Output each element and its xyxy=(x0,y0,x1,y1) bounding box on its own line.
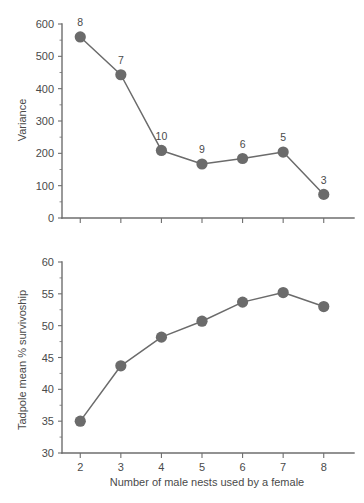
y-tick-label: 300 xyxy=(36,115,54,127)
data-point-marker xyxy=(156,145,167,156)
data-point-marker xyxy=(115,360,126,371)
y-tick-label: 55 xyxy=(42,288,54,300)
y-axis-title-variance: Variance xyxy=(16,99,28,142)
y-axis-title-survivorship: Tadpole mean % survivoship xyxy=(16,290,28,430)
y-tick-label: 100 xyxy=(36,180,54,192)
data-point-marker xyxy=(278,146,289,157)
data-point-marker xyxy=(237,153,248,164)
x-tick-label: 2 xyxy=(77,461,83,473)
x-tick-label: 8 xyxy=(321,461,327,473)
y-tick-label-group-variance: 0100200300400500600 xyxy=(36,18,54,224)
data-point-label: 3 xyxy=(321,174,327,186)
y-tick-label: 45 xyxy=(42,352,54,364)
survivorship-marker-group xyxy=(75,287,330,427)
y-tick-label: 30 xyxy=(42,447,54,459)
figure-container: Variance 0100200300400500600 87109653 Ta… xyxy=(0,0,364,503)
y-tick-label: 0 xyxy=(48,212,54,224)
survivorship-series-line xyxy=(80,293,323,422)
data-point-label: 9 xyxy=(199,143,205,155)
data-point-marker xyxy=(318,301,329,312)
data-point-marker xyxy=(278,287,289,298)
data-point-marker xyxy=(318,189,329,200)
data-point-label: 7 xyxy=(118,54,124,66)
x-axis-title-survivorship: Number of male nests used by a female xyxy=(110,476,304,488)
data-point-marker xyxy=(115,69,126,80)
chart-panel-variance: Variance 0100200300400500600 87109653 xyxy=(0,0,364,248)
x-tick-label: 5 xyxy=(199,461,205,473)
data-point-marker xyxy=(75,416,86,427)
y-tick-label: 600 xyxy=(36,18,54,30)
variance-series-line xyxy=(80,37,323,194)
y-tick-label: 200 xyxy=(36,147,54,159)
data-point-marker xyxy=(196,158,207,169)
data-point-marker xyxy=(75,31,86,42)
y-tick-label: 40 xyxy=(42,383,54,395)
x-tick-label: 6 xyxy=(240,461,246,473)
x-tick-label: 4 xyxy=(158,461,164,473)
y-tick-label: 50 xyxy=(42,320,54,332)
data-point-label: 8 xyxy=(77,16,83,28)
data-point-label: 5 xyxy=(280,131,286,143)
data-point-marker xyxy=(156,332,167,343)
data-point-marker xyxy=(196,316,207,327)
x-tick-label: 3 xyxy=(118,461,124,473)
data-point-marker xyxy=(237,297,248,308)
variance-marker-group xyxy=(75,31,330,200)
x-tick-label: 7 xyxy=(280,461,286,473)
variance-chart-svg: Variance 0100200300400500600 87109653 xyxy=(0,0,364,248)
data-point-label: 6 xyxy=(240,138,246,150)
y-tick-label: 60 xyxy=(42,256,54,268)
chart-panel-survivorship: Tadpole mean % survivoship Number of mal… xyxy=(0,248,364,503)
data-point-label: 10 xyxy=(156,130,168,142)
x-tick-group-variance xyxy=(80,218,323,223)
y-tick-label: 400 xyxy=(36,83,54,95)
survivorship-chart-svg: Tadpole mean % survivoship Number of mal… xyxy=(0,248,364,503)
y-tick-label: 35 xyxy=(42,415,54,427)
y-tick-label: 500 xyxy=(36,50,54,62)
y-tick-label-group-survivorship: 30354045505560 xyxy=(42,256,54,459)
x-tick-group-survivorship xyxy=(80,453,323,458)
x-tick-label-group-survivorship: 2345678 xyxy=(77,461,327,473)
